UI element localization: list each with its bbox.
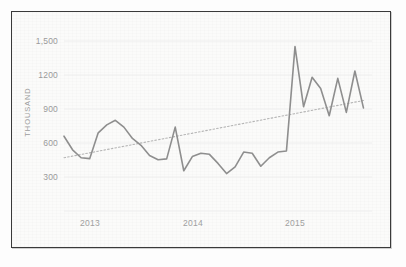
y-tick-1200: 1200 bbox=[38, 70, 58, 80]
y-axis-tick-labels: 1,500 1200 900 600 300 bbox=[36, 36, 58, 182]
x-tick-2014: 2014 bbox=[183, 218, 203, 228]
y-tick-900: 900 bbox=[43, 104, 58, 114]
chart-figure-frame: 1,500 1200 900 600 300 THOUSAND 2013 201… bbox=[11, 11, 391, 248]
y-tick-600: 600 bbox=[43, 138, 58, 148]
x-tick-2013: 2013 bbox=[80, 218, 100, 228]
y-tick-1500: 1,500 bbox=[36, 36, 58, 46]
data-series-line bbox=[64, 47, 363, 174]
y-tick-300: 300 bbox=[43, 172, 58, 182]
gridlines bbox=[64, 41, 372, 211]
x-axis-tick-labels: 2013 2014 2015 bbox=[80, 218, 305, 228]
x-tick-2015: 2015 bbox=[285, 218, 305, 228]
screenshot-root: 1,500 1200 900 600 300 THOUSAND 2013 201… bbox=[0, 0, 406, 267]
line-chart: 1,500 1200 900 600 300 THOUSAND 2013 201… bbox=[12, 12, 389, 246]
y-axis-title: THOUSAND bbox=[23, 87, 32, 136]
